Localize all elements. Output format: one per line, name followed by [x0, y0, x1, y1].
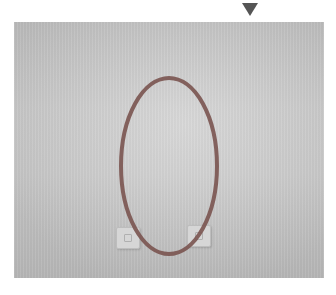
annotation-layer [0, 0, 336, 295]
highlight-ellipse [121, 78, 217, 254]
